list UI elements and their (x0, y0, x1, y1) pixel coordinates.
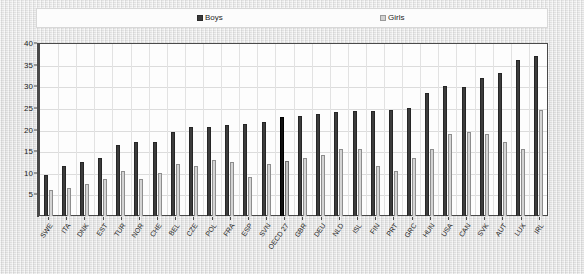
legend-swatch-boys-icon (197, 15, 203, 21)
x-axis-tick-mark (66, 217, 67, 220)
x-axis-tick-mark (357, 217, 358, 220)
x-axis-tick-label: IRL (532, 222, 545, 236)
x-axis-tick-mark (48, 217, 49, 220)
y-axis-tick-label: 15 (24, 147, 33, 156)
gridline-vertical (76, 44, 77, 215)
gridline-vertical (257, 44, 258, 215)
gridline-vertical (420, 44, 421, 215)
x-axis-tick-label: BEL (168, 222, 182, 237)
x-axis-tick-mark (448, 217, 449, 220)
x-axis-tick-label: FRA (222, 222, 237, 238)
y-axis-tick-label: 20 (24, 125, 33, 134)
x-axis-tick-mark (321, 217, 322, 220)
x-axis-tick-label: DNK (76, 222, 91, 239)
horizontal-gridlines (40, 44, 547, 215)
x-axis-tick-mark (412, 217, 413, 220)
legend-swatch-girls-icon (380, 15, 386, 21)
vertical-gridlines (40, 44, 547, 215)
gridline-horizontal (40, 109, 547, 110)
x-axis-tick-mark (175, 217, 176, 220)
x-axis-label-cell: DNK (75, 217, 93, 267)
x-axis-tick-label: SVN (258, 222, 273, 238)
x-axis-tick-label: SVK (476, 222, 491, 238)
gridline-vertical (384, 44, 385, 215)
x-axis-tick-mark (139, 217, 140, 220)
x-axis-tick-mark (121, 217, 122, 220)
x-axis-tick-label: POL (204, 222, 219, 238)
x-axis-label-cell: TUR (112, 217, 130, 267)
gridline-vertical (112, 44, 113, 215)
x-axis-tick-mark (430, 217, 431, 220)
y-axis-tick-label: 5 (29, 190, 33, 199)
gridline-horizontal (40, 87, 547, 88)
x-axis-label-cell: OECD 27 (275, 217, 293, 267)
x-axis-tick-mark (484, 217, 485, 220)
gridline-vertical (348, 44, 349, 215)
x-axis-label-cell: ESP (239, 217, 257, 267)
x-axis-label-cell: GBR (293, 217, 311, 267)
x-axis-tick-mark (375, 217, 376, 220)
chart-legend: Boys Girls (36, 8, 548, 28)
x-axis-tick-label: ITA (60, 222, 73, 235)
x-axis-tick-label: NOR (130, 222, 145, 239)
x-axis-label-cell: FIN (366, 217, 384, 267)
x-axis-label-cell: USA (439, 217, 457, 267)
x-axis-tick-mark (193, 217, 194, 220)
gridline-vertical (94, 44, 95, 215)
x-axis-tick-mark (266, 217, 267, 220)
gridline-horizontal (40, 131, 547, 132)
x-axis-label-cell: LUX (511, 217, 529, 267)
legend-entry-boys: Boys (197, 12, 223, 24)
gridline-vertical (58, 44, 59, 215)
gridline-vertical (167, 44, 168, 215)
x-axis-tick-label: SWE (39, 222, 55, 240)
x-axis-tick-mark (302, 217, 303, 220)
legend-label-girls: Girls (388, 12, 404, 24)
x-axis-tick-mark (393, 217, 394, 220)
x-axis-label-cell: FRA (221, 217, 239, 267)
x-axis-tick-label: HUN (421, 222, 436, 239)
y-axis-tick-label: 40 (24, 39, 33, 48)
x-axis-tick-label: CZE (185, 222, 200, 238)
x-axis-tick-mark (157, 217, 158, 220)
y-axis-tick-label: 25 (24, 103, 33, 112)
x-axis-label-cell: NLD (330, 217, 348, 267)
x-axis-tick-mark (539, 217, 540, 220)
x-axis-tick-label: CHE (149, 222, 164, 239)
x-axis-tick-mark (212, 217, 213, 220)
x-axis-label-cell: BEL (166, 217, 184, 267)
legend-label-boys: Boys (205, 12, 223, 24)
x-axis-tick-mark (502, 217, 503, 220)
x-axis-label-cell: IRL (530, 217, 548, 267)
gridline-vertical (402, 44, 403, 215)
y-axis-tick-label: 10 (24, 168, 33, 177)
gridline-horizontal (40, 66, 547, 67)
x-axis-label-cell: SWE (39, 217, 57, 267)
gridline-vertical (131, 44, 132, 215)
x-axis-tick-label: USA (440, 222, 455, 238)
x-axis-tick-mark (284, 217, 285, 220)
x-axis-tick-label: EST (95, 222, 109, 238)
x-axis-label-cell: AUT (493, 217, 511, 267)
x-axis-tick-mark (521, 217, 522, 220)
x-axis-label-cell: PRT (384, 217, 402, 267)
x-axis-tick-mark (230, 217, 231, 220)
gridline-vertical (493, 44, 494, 215)
x-axis-tick-label: CAN (458, 222, 473, 239)
gridline-vertical (529, 44, 530, 215)
x-axis-label-cell: NOR (130, 217, 148, 267)
x-axis-tick-label: GBR (294, 222, 309, 239)
gridline-vertical (294, 44, 295, 215)
gridline-vertical (149, 44, 150, 215)
x-axis-label-cell: CAN (457, 217, 475, 267)
y-axis-tick-label: 35 (24, 60, 33, 69)
gridline-vertical (221, 44, 222, 215)
x-axis-labels: SWEITADNKESTTURNORCHEBELCZEPOLFRAESPSVNO… (39, 217, 548, 267)
x-axis-tick-mark (466, 217, 467, 220)
gridline-vertical (239, 44, 240, 215)
x-axis-tick-label: NLD (331, 222, 346, 238)
x-axis-label-cell: DEU (312, 217, 330, 267)
x-axis-tick-mark (84, 217, 85, 220)
plot-area (39, 43, 548, 216)
x-axis-label-cell: SVK (475, 217, 493, 267)
